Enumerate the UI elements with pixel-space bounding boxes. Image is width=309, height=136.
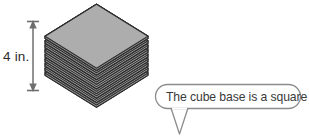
callout-bubble: The cube base is a square. [156, 85, 309, 135]
callout-tail [171, 108, 188, 134]
callout-text: The cube base is a square. [166, 90, 308, 104]
paper-stack [45, 4, 148, 107]
cube-stack-figure: 4 in. [0, 0, 308, 136]
figure-container: 4 in. [0, 0, 308, 136]
dimension-label: 4 in. [3, 49, 30, 64]
